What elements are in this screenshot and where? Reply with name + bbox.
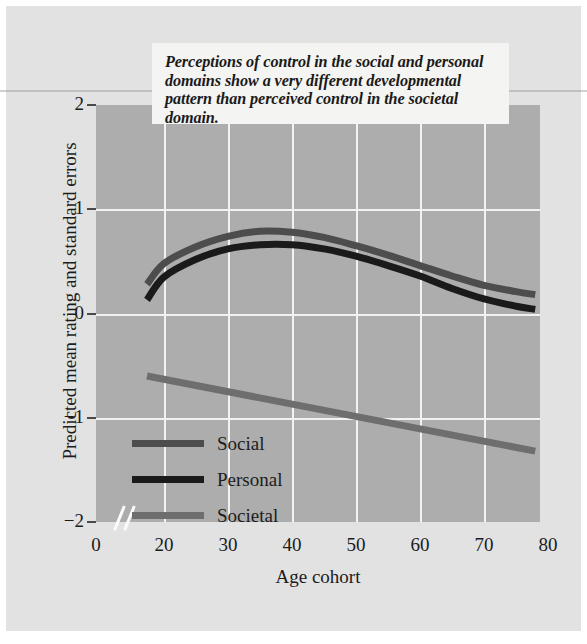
x-tick-label: 0 xyxy=(71,534,121,556)
x-tick-mark xyxy=(484,513,486,522)
x-tick-label: 40 xyxy=(267,534,317,556)
legend-item-personal[interactable]: Personal xyxy=(132,461,282,497)
legend-item-societal[interactable]: Societal xyxy=(132,497,282,533)
x-tick-label: 70 xyxy=(459,534,509,556)
legend-label: Societal xyxy=(217,506,278,525)
legend-swatch-icon xyxy=(132,476,204,483)
y-tick-mark xyxy=(87,208,96,210)
y-tick-mark xyxy=(87,104,96,106)
x-axis-title: Age cohort xyxy=(96,566,540,588)
x-tick-mark xyxy=(356,513,358,522)
legend-label: Social xyxy=(217,434,265,453)
legend-swatch-icon xyxy=(132,440,204,447)
legend-item-social[interactable]: Social xyxy=(132,425,282,461)
series-line-social xyxy=(147,231,535,295)
y-axis-title: Predicted mean rating and standard error… xyxy=(59,101,81,501)
y-tick-mark xyxy=(87,417,96,419)
legend-swatch-icon xyxy=(132,512,204,519)
x-tick-label: 80 xyxy=(523,534,573,556)
x-tick-mark xyxy=(292,513,294,522)
x-tick-label: 50 xyxy=(331,534,381,556)
series-line-personal xyxy=(147,244,535,309)
annotation-callout-text: Perceptions of control in the social and… xyxy=(165,53,497,127)
annotation-callout-box: Perceptions of control in the social and… xyxy=(152,43,509,124)
y-tick-label: −2 xyxy=(44,510,84,532)
chart-legend: SocialPersonalSocietal xyxy=(132,425,282,533)
x-tick-label: 30 xyxy=(203,534,253,556)
figure-container: 210−1−2 020304050607080 Perceptions of c… xyxy=(0,0,587,644)
legend-label: Personal xyxy=(217,470,282,489)
y-tick-mark xyxy=(87,521,96,523)
y-tick-mark xyxy=(87,313,96,315)
x-tick-label: 20 xyxy=(139,534,189,556)
x-tick-label: 60 xyxy=(395,534,445,556)
x-tick-mark xyxy=(420,513,422,522)
